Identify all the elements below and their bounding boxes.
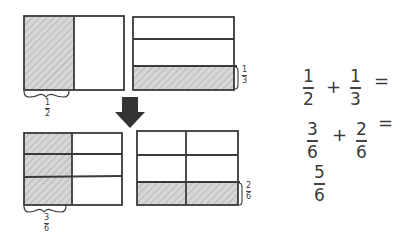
eq2-plus: + [332,124,347,145]
label-numerator: 1 [242,66,247,74]
bracket-icon [235,67,238,89]
denominator: 6 [356,144,367,161]
eq1-plus: + [326,76,341,97]
eq3-result-fraction: 5 6 [314,164,325,204]
eq2-fraction-a: 3 6 [307,121,318,161]
label-numerator: 1 [45,99,50,107]
numerator: 5 [314,164,325,181]
eq1-fraction-a: 1 2 [303,68,314,108]
label-one-half: 1 2 [45,99,50,118]
bottom-right-box-sixths [137,131,242,205]
brace-icon [24,91,69,97]
eq1-fraction-b: 1 3 [350,68,361,108]
brace-icon [24,206,66,212]
numerator: 3 [307,121,318,138]
label-denominator: 6 [44,225,49,233]
numerator: 1 [303,68,314,85]
denominator: 6 [307,144,318,161]
denominator: 2 [303,91,314,108]
eq1-equals: = [374,70,389,91]
label-two-sixths: 2 6 [246,182,251,201]
label-denominator: 6 [246,193,251,201]
shaded-two-sixths [137,182,238,205]
label-three-sixths: 3 6 [44,214,49,233]
eq2-fraction-b: 2 6 [356,121,367,161]
label-numerator: 2 [246,182,251,190]
label-denominator: 3 [242,77,247,85]
bottom-left-box-sixths [24,133,122,212]
bracket-icon [239,183,242,205]
top-right-box-thirds [133,17,238,90]
shaded-third [133,66,234,90]
label-one-third: 1 3 [242,66,247,85]
numerator: 2 [356,121,367,138]
top-left-box-halves [24,16,124,97]
fraction-diagram [0,0,410,250]
down-arrow-icon [115,97,145,128]
eq2-equals: = [378,112,393,133]
numerator: 1 [350,68,361,85]
shaded-three-sixths [24,133,72,205]
denominator: 3 [350,91,361,108]
label-numerator: 3 [44,214,49,222]
label-denominator: 2 [45,110,50,118]
denominator: 6 [314,187,325,204]
shaded-half [24,16,74,90]
